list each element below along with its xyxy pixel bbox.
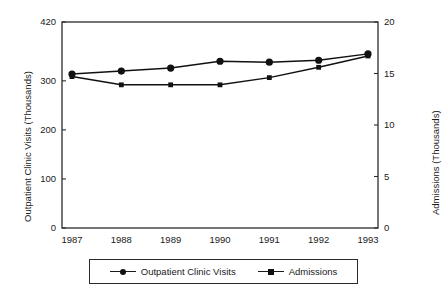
legend-label-outpatient-clinic-visits: Outpatient Clinic Visits bbox=[141, 266, 236, 277]
square-marker-icon bbox=[258, 267, 284, 277]
legend-item-outpatient-clinic-visits: Outpatient Clinic Visits bbox=[110, 266, 236, 277]
circle-marker-icon bbox=[110, 267, 136, 277]
legend-item-admissions: Admissions bbox=[258, 266, 338, 277]
plot-area bbox=[0, 0, 445, 298]
legend-label-admissions: Admissions bbox=[289, 266, 338, 277]
chart-legend: Outpatient Clinic Visits Admissions bbox=[89, 259, 358, 284]
chart-figure: Outpatient Clinic Visits (Thousands) Adm… bbox=[0, 0, 445, 298]
